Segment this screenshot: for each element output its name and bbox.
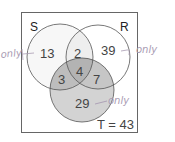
- annotation-left-text: only: [0, 47, 23, 60]
- region-r-t-only: 7: [93, 72, 100, 87]
- universe-total-label: T = 43: [97, 117, 134, 132]
- venn-diagram: S R 13 2 39 3 4 7 29 T = 43 only only on…: [0, 0, 175, 142]
- annotation-bottom-text: only: [108, 95, 130, 106]
- region-s-r-t: 4: [76, 64, 83, 79]
- region-s-t-only: 3: [58, 72, 65, 87]
- region-s-only: 13: [40, 46, 54, 61]
- annotation-right-text: only: [136, 44, 158, 55]
- set-s-label: S: [30, 20, 38, 34]
- region-s-r-only: 2: [74, 46, 81, 61]
- set-r-label: R: [120, 20, 129, 34]
- region-t-only: 29: [75, 96, 89, 111]
- region-r-only: 39: [101, 43, 115, 58]
